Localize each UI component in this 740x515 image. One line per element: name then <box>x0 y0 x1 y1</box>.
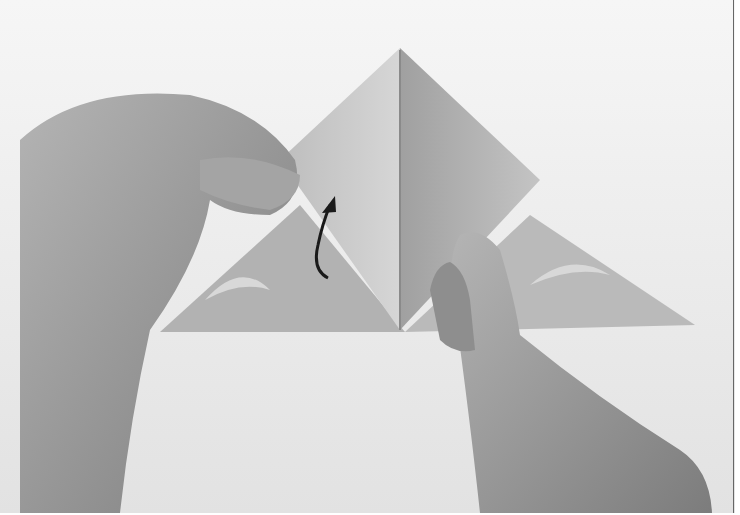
origami-photo <box>0 0 740 515</box>
right-border-rule <box>733 0 734 513</box>
photo-illustration <box>0 0 740 515</box>
